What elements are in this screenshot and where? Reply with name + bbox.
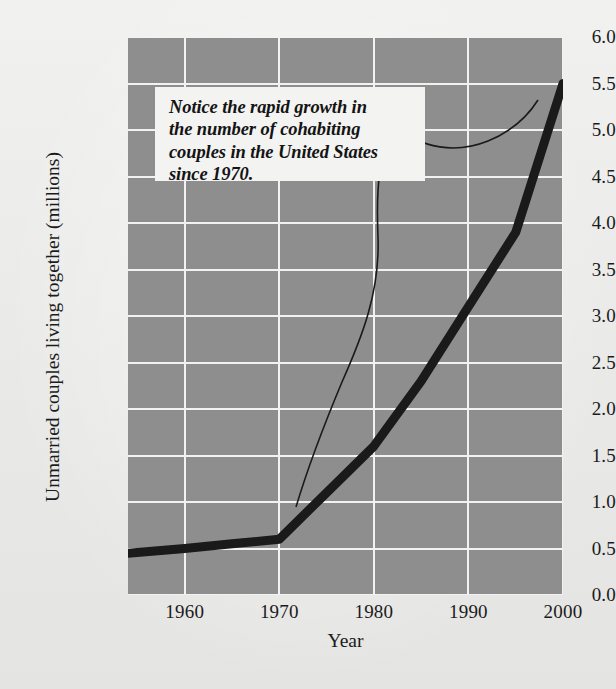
annotation-callout: Notice the rapid growth in the number of… — [155, 87, 425, 181]
y-axis-title: Unmarried couples living together (milli… — [42, 92, 64, 562]
y-axis-tick-label: 3.0 — [498, 305, 616, 327]
y-axis-tick-label: 2.0 — [498, 398, 616, 420]
y-axis-tick-label: 6.0 — [498, 26, 616, 48]
y-axis-tick-label: 4.0 — [498, 212, 616, 234]
y-axis-tick-label: 1.0 — [498, 491, 616, 513]
y-axis-tick-label: 4.5 — [498, 166, 616, 188]
annotation-callout-text: Notice the rapid growth in the number of… — [169, 96, 415, 186]
y-axis-tick-label: 1.5 — [498, 445, 616, 467]
chart-figure: 0.00.51.01.52.02.53.03.54.04.55.05.56.0 … — [0, 0, 616, 689]
y-axis-tick-label: 0.5 — [498, 538, 616, 560]
y-axis-tick-label: 5.5 — [498, 73, 616, 95]
x-axis-tick-label: 1960 — [140, 601, 230, 623]
y-axis-tick-label: 5.0 — [498, 119, 616, 141]
x-axis-tick-label: 1970 — [234, 601, 324, 623]
x-axis-tick-label: 2000 — [518, 601, 608, 623]
x-axis-tick-label: 1990 — [423, 601, 513, 623]
y-axis-tick-label: 3.5 — [498, 259, 616, 281]
x-axis-title: Year — [128, 630, 563, 652]
x-axis-tick-label: 1980 — [329, 601, 419, 623]
y-axis-tick-label: 2.5 — [498, 352, 616, 374]
